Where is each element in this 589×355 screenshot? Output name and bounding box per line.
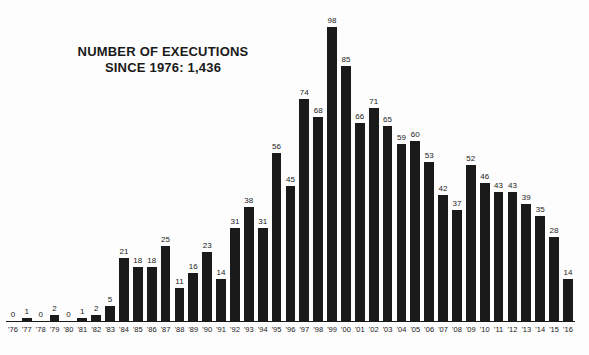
chart-area: 0102012521181825111623143138315645746898… [6,0,575,355]
bar [286,186,296,321]
bar-value-label: 98 [328,16,337,25]
bar-column: 5 [103,0,117,321]
year-label: '88 [173,322,187,334]
bar-column: 35 [533,0,547,321]
bar [216,279,226,321]
bar [230,228,240,321]
year-label: '05 [408,322,422,334]
bar [272,153,282,321]
bar [258,228,268,321]
bar-column: 0 [6,0,20,321]
bar-value-label: 60 [411,130,420,139]
bar-value-label: 23 [203,241,212,250]
year-label: '13 [519,322,533,334]
bar [147,267,157,321]
year-label: '80 [62,322,76,334]
bar-value-label: 0 [11,310,15,319]
bar [549,237,559,321]
year-label: '78 [34,322,48,334]
bar [22,318,32,321]
bar-column: 18 [131,0,145,321]
bar [369,108,379,321]
bar [424,162,434,321]
year-label: '79 [48,322,62,334]
year-label: '98 [311,322,325,334]
year-label: '83 [103,322,117,334]
year-label: '93 [242,322,256,334]
bar-value-label: 43 [494,181,503,190]
bar-value-label: 14 [217,268,226,277]
bar-column: 74 [297,0,311,321]
year-label: '96 [284,322,298,334]
year-label: '07 [436,322,450,334]
bar-value-label: 2 [94,304,98,313]
year-label: '02 [367,322,381,334]
bar-column: 1 [75,0,89,321]
year-label: '04 [395,322,409,334]
year-label: '91 [214,322,228,334]
bar [535,216,545,321]
bar-column: 46 [478,0,492,321]
bar [466,165,476,321]
bar-value-label: 35 [536,205,545,214]
year-label: '16 [561,322,575,334]
bar-value-label: 1 [25,307,29,316]
bar [521,204,531,321]
year-label: '11 [492,322,506,334]
bar-column: 56 [270,0,284,321]
bar-value-label: 71 [369,97,378,106]
bar-column: 28 [547,0,561,321]
bar-value-label: 56 [272,142,281,151]
bars-row: 0102012521181825111623143138315645746898… [6,0,575,322]
bar-value-label: 28 [550,226,559,235]
bar-value-label: 5 [108,295,112,304]
bar [313,117,323,321]
bar [161,246,171,321]
bar-value-label: 46 [480,172,489,181]
bar-column: 39 [519,0,533,321]
bar-value-label: 74 [300,88,309,97]
bar [299,99,309,321]
bar-value-label: 39 [522,193,531,202]
year-label: '76 [6,322,20,334]
bar [438,195,448,321]
bar [327,27,337,321]
bar-column: 38 [242,0,256,321]
year-label: '10 [478,322,492,334]
bar-column: 16 [186,0,200,321]
bar-column: 2 [89,0,103,321]
year-label: '15 [547,322,561,334]
year-label: '00 [339,322,353,334]
bar-column: 25 [159,0,173,321]
bar-value-label: 65 [383,115,392,124]
bar [410,141,420,321]
bar-column: 45 [284,0,298,321]
year-label: '94 [256,322,270,334]
bar-value-label: 52 [466,154,475,163]
bar-column: 71 [367,0,381,321]
executions-bar-chart: NUMBER OF EXECUTIONS SINCE 1976: 1,436 0… [0,0,589,355]
year-label: '97 [297,322,311,334]
bar-column: 11 [173,0,187,321]
year-label: '08 [450,322,464,334]
bar-column: 59 [395,0,409,321]
bar-value-label: 85 [341,55,350,64]
bar-column: 52 [464,0,478,321]
bar-column: 43 [506,0,520,321]
bar-value-label: 16 [189,262,198,271]
bar [452,210,462,321]
year-label: '77 [20,322,34,334]
bar-column: 31 [256,0,270,321]
x-axis-labels: '76'77'78'79'80'81'82'83'84'85'86'87'88'… [6,322,575,334]
bar-value-label: 1 [80,307,84,316]
bar-value-label: 42 [439,184,448,193]
bar-value-label: 25 [161,235,170,244]
bar [341,66,351,321]
bar-value-label: 37 [452,199,461,208]
bar [480,183,490,321]
year-label: '12 [506,322,520,334]
bar-column: 0 [62,0,76,321]
bar [105,306,115,321]
year-label: '95 [270,322,284,334]
bar [244,207,254,321]
